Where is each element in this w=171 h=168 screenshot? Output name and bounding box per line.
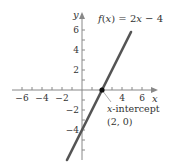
function-graph: −6 −4 −2 4 6 6 4 2 −2 −4 y x f(x) = 2x −… [0, 0, 171, 168]
y-tick-label: 4 [73, 45, 79, 55]
y-tick-label: −2 [66, 105, 79, 115]
x-tick-label: −4 [35, 93, 49, 103]
x-tick-label: 4 [119, 93, 125, 103]
x-tick-label: −2 [55, 93, 68, 103]
intercept-annotation-label: x-intercept [107, 103, 160, 114]
x-intercept-point [99, 87, 104, 92]
y-tick-label: 6 [73, 25, 79, 35]
y-tick-label: −4 [66, 125, 80, 135]
y-axis [79, 12, 85, 160]
intercept-coordinates: (2, 0) [107, 116, 133, 127]
function-label: f(x) = 2x − 4 [97, 13, 163, 24]
y-axis-label: y [72, 9, 79, 20]
x-tick-label: −6 [15, 93, 29, 103]
y-tick-label: 2 [73, 65, 79, 75]
x-tick-label: 6 [139, 93, 145, 103]
x-axis [12, 87, 158, 93]
